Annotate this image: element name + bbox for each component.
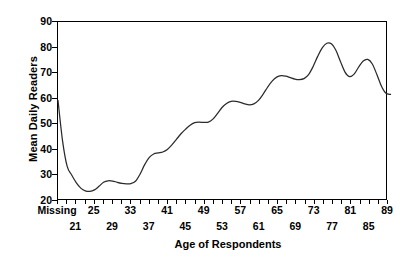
x-tick-label: 65 (271, 205, 283, 216)
x-tick-label: 45 (179, 221, 191, 232)
y-axis-title: Mean Daily Readers (27, 29, 39, 189)
x-tick-mark (112, 200, 113, 204)
x-tick-mark (323, 200, 324, 204)
data-line-mean-daily-readers (58, 43, 391, 192)
x-tick-mark (140, 200, 141, 204)
x-tick-mark (195, 200, 196, 204)
x-tick-mark (332, 200, 333, 204)
x-tick-label: 53 (216, 221, 228, 232)
y-tick-label: 40 (26, 144, 52, 155)
x-tick-label: 73 (308, 205, 320, 216)
y-tick-label: 90 (26, 16, 52, 27)
x-tick-mark (149, 200, 150, 204)
chart-figure: Mean Daily Readers 9080706050403020 Miss… (0, 0, 408, 266)
x-tick-label: 37 (143, 221, 155, 232)
line-series-svg (58, 22, 386, 199)
x-tick-mark (250, 200, 251, 204)
y-tick-label: 30 (26, 169, 52, 180)
x-axis-title: Age of Respondents (0, 238, 408, 250)
x-tick-mark (360, 200, 361, 204)
x-tick-label: 77 (326, 221, 338, 232)
x-tick-mark (85, 200, 86, 204)
x-tick-label: 29 (106, 221, 118, 232)
x-tick-label: 69 (289, 221, 301, 232)
x-tick-label: Missing (37, 205, 76, 216)
x-tick-label: 21 (69, 221, 81, 232)
x-tick-mark (341, 200, 342, 204)
x-tick-label: 49 (198, 205, 210, 216)
x-tick-mark (213, 200, 214, 204)
x-tick-mark (231, 200, 232, 204)
x-axis-title-text: Age of Respondents (175, 238, 282, 250)
x-tick-mark (286, 200, 287, 204)
y-tick-label: 70 (26, 67, 52, 78)
x-tick-label: 57 (234, 205, 246, 216)
x-tick-mark (185, 200, 186, 204)
x-tick-mark (259, 200, 260, 204)
y-tick-label: 60 (26, 93, 52, 104)
x-tick-mark (268, 200, 269, 204)
x-tick-label: 61 (253, 221, 265, 232)
cutoff-caption-sliver (8, 259, 368, 266)
y-tick-label: 80 (26, 42, 52, 53)
x-tick-mark (103, 200, 104, 204)
x-tick-mark (121, 200, 122, 204)
plot-area (57, 21, 387, 200)
x-tick-mark (295, 200, 296, 204)
x-tick-label: 85 (363, 221, 375, 232)
x-tick-mark (378, 200, 379, 204)
x-tick-label: 89 (381, 205, 393, 216)
x-tick-mark (176, 200, 177, 204)
x-tick-mark (369, 200, 370, 204)
x-tick-mark (305, 200, 306, 204)
x-tick-label: 33 (124, 205, 136, 216)
x-tick-label: 25 (88, 205, 100, 216)
x-tick-mark (158, 200, 159, 204)
x-tick-label: 81 (344, 205, 356, 216)
y-tick-label: 50 (26, 118, 52, 129)
x-tick-mark (222, 200, 223, 204)
x-tick-label: 41 (161, 205, 173, 216)
